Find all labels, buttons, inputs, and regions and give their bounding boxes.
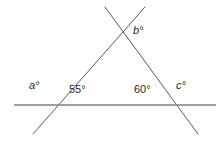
angle-label-c: c° [176, 80, 186, 91]
geometry-canvas [0, 0, 224, 141]
angle-label-interior-left: 55° [69, 84, 86, 95]
right-transversal-line [105, 7, 198, 134]
geometry-figure: a° b° c° 55° 60° [0, 0, 224, 141]
angle-label-a: a° [29, 80, 40, 91]
angle-label-b: b° [133, 25, 144, 36]
left-transversal-line [33, 7, 145, 134]
angle-label-interior-right: 60° [134, 84, 151, 95]
